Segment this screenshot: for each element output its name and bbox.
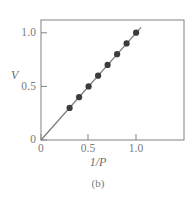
y-axis-label: V	[11, 68, 18, 83]
data-point	[114, 51, 120, 57]
x-tick-label-1-0: 1.0	[126, 142, 146, 154]
data-point	[67, 105, 73, 111]
data-point	[105, 62, 111, 68]
y-axis-ticks	[41, 33, 47, 140]
x-axis-ticks	[41, 134, 136, 140]
data-point	[133, 30, 139, 36]
data-point	[124, 40, 130, 46]
figure-panel-b: 1.0 0.5 0 0 0.5 1.0 V 1/P (b)	[0, 0, 196, 198]
x-tick-label-0: 0	[31, 142, 51, 154]
x-tick-label-0-5: 0.5	[78, 142, 98, 154]
data-point	[95, 73, 101, 79]
data-point	[76, 94, 82, 100]
data-point	[86, 83, 92, 89]
figure-caption: (b)	[0, 177, 196, 189]
plot-frame	[41, 20, 184, 140]
y-tick-label-1-0: 1.0	[6, 26, 36, 38]
x-axis-label: 1/P	[0, 155, 196, 170]
